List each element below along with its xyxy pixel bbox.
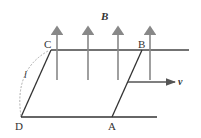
dashed-arc [20, 51, 48, 116]
diagram: B v l C B D A [0, 0, 201, 138]
point-c: C [44, 39, 51, 50]
point-a: A [108, 121, 116, 132]
velocity-label: v [178, 77, 182, 87]
length-label: l [24, 70, 27, 80]
point-d: D [15, 121, 23, 132]
point-b: B [138, 39, 145, 50]
field-label: B [101, 11, 108, 22]
rod-ab [112, 50, 142, 117]
